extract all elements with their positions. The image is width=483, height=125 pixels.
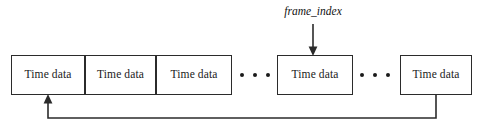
frame-index-arrow	[309, 24, 318, 56]
buffer-cell-3-label: Time data	[171, 69, 218, 81]
buffer-cell-2: Time data	[85, 55, 156, 95]
time-data-buffer-diagram: Time data Time data Time data Time data …	[0, 0, 483, 125]
buffer-cell-5: Time data	[400, 55, 472, 95]
ellipsis-dot-icon	[253, 73, 257, 77]
ellipsis-dot-icon	[240, 73, 244, 77]
feedback-loop-arrow-head	[44, 94, 53, 104]
ellipsis-dot-icon	[386, 73, 390, 77]
buffer-cell-2-label: Time data	[97, 69, 144, 81]
ellipsis-group-2	[360, 70, 390, 80]
buffer-cell-4-label: Time data	[292, 69, 339, 81]
buffer-cell-5-label: Time data	[413, 69, 460, 81]
buffer-cell-1: Time data	[11, 55, 85, 95]
ellipsis-dot-icon	[266, 73, 270, 77]
ellipsis-dot-icon	[360, 73, 364, 77]
buffer-cell-3: Time data	[156, 55, 232, 95]
feedback-loop-arrow	[44, 94, 436, 118]
buffer-cell-4: Time data	[277, 55, 353, 95]
feedback-loop-path	[48, 95, 436, 118]
buffer-cell-1-label: Time data	[25, 69, 72, 81]
ellipsis-group-1	[240, 70, 270, 80]
frame-index-label: frame_index	[262, 6, 364, 18]
ellipsis-dot-icon	[373, 73, 377, 77]
